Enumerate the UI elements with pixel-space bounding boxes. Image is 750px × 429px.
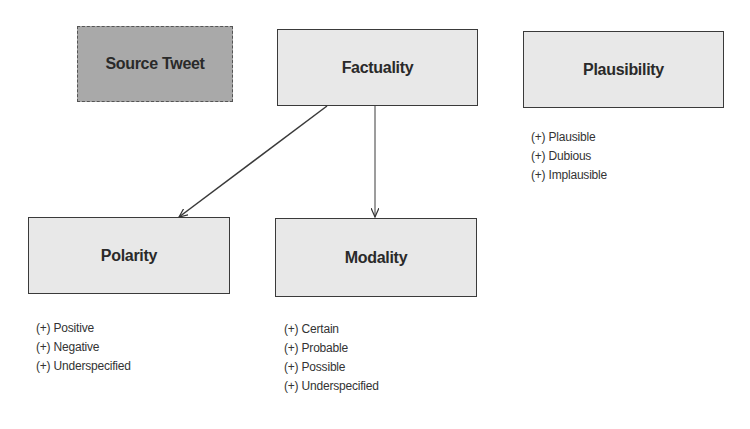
list-item: (+) Underspecified <box>36 357 131 376</box>
list-item: (+) Plausible <box>531 128 607 147</box>
node-modality: Modality <box>275 218 477 297</box>
node-label: Modality <box>345 249 408 267</box>
list-item: (+) Possible <box>284 358 379 377</box>
node-factuality: Factuality <box>277 29 478 106</box>
list-item: (+) Negative <box>36 338 131 357</box>
polarity-values-list: (+) Positive (+) Negative (+) Underspeci… <box>36 319 131 376</box>
list-item: (+) Positive <box>36 319 131 338</box>
node-source-tweet: Source Tweet <box>77 26 233 102</box>
edge-factuality-to-polarity <box>179 106 327 217</box>
modality-values-list: (+) Certain (+) Probable (+) Possible (+… <box>284 320 379 396</box>
list-item: (+) Probable <box>284 339 379 358</box>
node-label: Source Tweet <box>105 55 204 73</box>
list-item: (+) Implausible <box>531 166 607 185</box>
node-label: Factuality <box>342 59 414 77</box>
plausibility-values-list: (+) Plausible (+) Dubious (+) Implausibl… <box>531 128 607 185</box>
list-item: (+) Dubious <box>531 147 607 166</box>
node-plausibility: Plausibility <box>523 31 724 108</box>
node-polarity: Polarity <box>28 217 230 294</box>
list-item: (+) Underspecified <box>284 377 379 396</box>
node-label: Polarity <box>101 247 157 265</box>
list-item: (+) Certain <box>284 320 379 339</box>
node-label: Plausibility <box>583 61 664 79</box>
